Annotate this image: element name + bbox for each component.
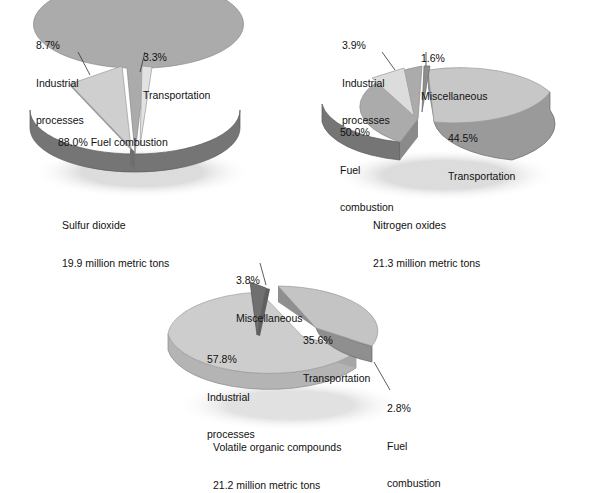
slice-label-line-1: 57.8% bbox=[207, 353, 255, 366]
slice-label-line-2: Transportation bbox=[448, 170, 515, 183]
callout-pct: 2.8% bbox=[387, 402, 441, 415]
slice-label-line-2: Fuel bbox=[340, 164, 394, 177]
callout-pct: 3.3% bbox=[143, 51, 210, 64]
slice-label-fuel-combustion: 88.0% Fuel combustion bbox=[58, 136, 168, 149]
callout-name-line1: Transportation bbox=[143, 89, 210, 102]
pie-chart-volatile-organic-compounds: 3.8% Miscellaneous 2.8% Fuel combustion … bbox=[150, 230, 480, 462]
callout-fuel-combustion: 2.8% Fuel combustion bbox=[387, 377, 441, 493]
caption-line-2: 21.2 million metric tons bbox=[213, 479, 341, 492]
callout-pct: 3.9% bbox=[342, 39, 390, 52]
slice-label-line-2: Industrial bbox=[207, 391, 255, 404]
slice-label-line-2: Transportation bbox=[303, 372, 370, 385]
slice-label-transportation: 44.5% Transportation bbox=[448, 107, 515, 207]
pie-chart-nitrogen-oxides: 3.9% Industrial processes 1.6% Miscellan… bbox=[300, 0, 607, 230]
callout-name-line1: Industrial bbox=[342, 77, 390, 90]
callout-name-line1: Miscellaneous bbox=[421, 90, 488, 103]
callout-pct: 8.7% bbox=[36, 39, 84, 52]
callout-name-line1: Fuel bbox=[387, 440, 441, 453]
callout-name-line1: Industrial bbox=[36, 77, 84, 90]
chart-caption-volatile-organic-compounds: Volatile organic compounds 21.2 million … bbox=[213, 416, 341, 493]
slice-label-line-1: 35.6% bbox=[303, 334, 370, 347]
callout-pct: 3.8% bbox=[236, 274, 303, 287]
caption-line-1: Volatile organic compounds bbox=[213, 441, 341, 454]
callout-name-line1: Miscellaneous bbox=[236, 312, 303, 325]
callout-name-line2: combustion bbox=[387, 477, 441, 490]
callout-transportation: 3.3% Transportation bbox=[143, 26, 210, 126]
callout-pct: 1.6% bbox=[421, 52, 488, 65]
callout-name-line2: processes bbox=[36, 114, 84, 127]
slice-label-line-1: 50.0% bbox=[340, 126, 394, 139]
slice-label-transportation: 35.6% Transportation bbox=[303, 309, 370, 409]
slice-label-line-1: 44.5% bbox=[448, 132, 515, 145]
callout-industrial-processes: 8.7% Industrial processes bbox=[36, 14, 84, 152]
pie-chart-sulfur-dioxide: 8.7% Industrial processes 3.3% Transport… bbox=[0, 0, 300, 230]
